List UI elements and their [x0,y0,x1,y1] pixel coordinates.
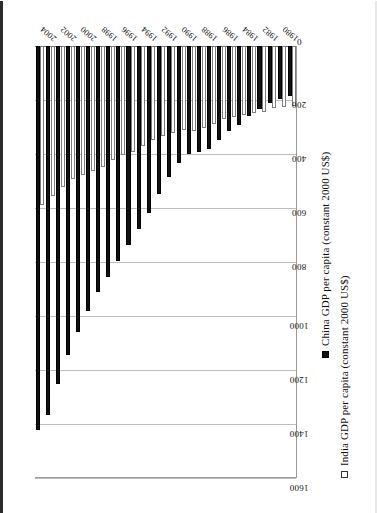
bar-china [116,46,120,261]
plot-area [35,46,297,478]
bar-india [292,46,296,106]
bar-china [126,46,130,245]
bar-china [277,46,281,99]
bar-row [65,46,75,477]
bar-india [100,46,104,167]
category-axis-tick-label: 1984 [239,24,259,43]
bar-india [40,46,44,205]
bar-india [262,46,266,112]
category-axis-tick-label: 2002 [58,24,78,43]
category-axis-tick-label: 2000 [78,24,98,43]
chart-legend: China GDP per capita (constant 2000 US$)… [319,46,357,478]
bar-row [45,46,55,477]
bar-row [236,46,246,477]
bar-china [55,46,59,384]
bar-china [106,46,110,277]
bar-india [131,46,135,152]
bar-row [85,46,95,477]
bar-china [96,46,100,293]
bar-india [80,46,84,175]
value-axis-tick-label: 200 [291,100,305,110]
bar-china [197,46,201,152]
bar-china [257,46,261,109]
bar-row [75,46,85,477]
category-axis-tick-label: 2004 [38,24,58,43]
page-border-top [0,0,377,1]
bar-india [110,46,114,160]
bar-india [211,46,215,124]
bar-india [50,46,54,196]
filled-square-icon [321,351,328,358]
bar-row [155,46,165,477]
bar-row [286,46,296,477]
bar-row [266,46,276,477]
bar-row [35,46,45,477]
value-axis-tick-label: 400 [291,154,305,164]
bar-rows [35,46,296,477]
value-axis-tick-label: 0 [296,36,301,46]
bar-china [45,46,49,415]
bar-row [145,46,155,477]
value-axis-tick-label: 1200 [289,375,308,385]
bar-india [70,46,74,179]
bar-india [252,46,256,113]
category-axis-tick-label: 1986 [219,24,239,43]
bar-india [90,46,94,171]
category-axis-tick-label: 1992 [159,24,179,43]
bar-row [256,46,266,477]
bar-india [221,46,225,119]
bar-china [186,46,190,154]
bar-china [76,46,80,332]
bar-row [246,46,256,477]
bar-row [226,46,236,477]
bar-row [55,46,65,477]
bar-china [247,46,251,116]
bar-row [135,46,145,477]
bar-row [95,46,105,477]
bar-row [196,46,206,477]
bar-india [161,46,165,136]
bar-row [105,46,115,477]
bar-china [146,46,150,213]
bar-china [207,46,211,149]
bar-china [237,46,241,125]
bar-china [86,46,90,311]
bar-row [216,46,226,477]
bar-india [181,46,185,130]
bar-india [241,46,245,115]
bar-row [166,46,176,477]
bar-row [115,46,125,477]
bar-india [201,46,205,128]
legend-item-china: China GDP per capita (constant 2000 US$) [319,151,331,357]
value-axis-tick-label: 800 [291,262,305,272]
page-border-left [0,0,3,513]
bar-china [156,46,160,195]
category-axis-tick-label: 1998 [98,24,118,43]
bar-china [227,46,231,131]
category-axis-tick-label: 1982 [259,24,279,43]
bar-india [171,46,175,133]
chart-page: 02004006008001000120014001600 2004200220… [0,0,377,513]
value-axis-tick-label: 1400 [289,429,308,439]
category-axis-tick-label: 1996 [118,24,138,43]
bar-row [206,46,216,477]
bar-india [272,46,276,108]
bar-chart-figure: 02004006008001000120014001600 2004200220… [19,22,359,492]
category-axis-tick-label: 1994 [139,24,159,43]
value-axis-tick-label: 1000 [289,321,308,331]
bar-china [267,46,271,103]
bar-china [166,46,170,177]
bar-india [141,46,145,146]
hollow-square-icon [340,471,347,478]
bar-china [217,46,221,140]
bar-china [136,46,140,229]
bar-china [287,46,291,96]
rotated-figure-wrapper: 02004006008001000120014001600 2004200220… [19,22,359,492]
bar-row [125,46,135,477]
bar-india [191,46,195,131]
bar-india [60,46,64,187]
bar-row [276,46,286,477]
category-axis-tick-label: 1988 [199,24,219,43]
bar-china [176,46,180,163]
bar-china [35,46,39,430]
